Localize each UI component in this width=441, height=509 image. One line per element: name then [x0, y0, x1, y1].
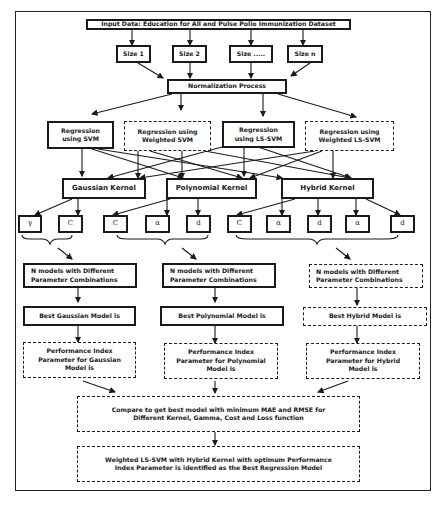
- regression-label: Regression using Weighted SVM: [138, 128, 198, 145]
- kernel-label: Polynomial Kernel: [176, 184, 248, 193]
- input-data-box: Input Data: Education for All and Pulse …: [86, 19, 351, 30]
- connector-arrows: [0, 0, 441, 509]
- performance-gaussian-box: Performance Index Parameter for Gaussian…: [23, 342, 136, 378]
- param-label: C: [237, 219, 242, 228]
- result-label: Weighted LS-SVM with Hybrid Kernel with …: [105, 456, 332, 473]
- best-polynomial-model-box: Best Polynomial Model is: [160, 306, 284, 326]
- regression-label: Regression using SVM: [61, 127, 100, 144]
- regression-label: Regression using LS-SVM: [235, 126, 283, 143]
- size-label: Size .....: [237, 50, 265, 58]
- regression-weighted-svm-box: Regression using Weighted SVM: [124, 121, 211, 151]
- param-label: α: [355, 219, 360, 228]
- performance-label: Performance Index Parameter for Polynomi…: [176, 348, 265, 373]
- param-polynomial-alpha: α: [145, 215, 170, 233]
- compare-models-box: Compare to get best model with minimum M…: [77, 396, 360, 432]
- param-label: α: [155, 219, 160, 228]
- param-label: C: [113, 219, 118, 228]
- regression-label: Regression using Weighted LS-SVM: [319, 128, 381, 145]
- size-box-n: Size n: [287, 45, 323, 63]
- best-regression-model-box: Weighted LS-SVM with Hybrid Kernel with …: [77, 446, 360, 482]
- param-label: d: [317, 219, 321, 228]
- param-polynomial-c: C: [103, 215, 128, 233]
- size-box-1: Size 1: [116, 45, 151, 63]
- size-box-2: Size 2: [172, 45, 207, 63]
- best-model-label: Best Polynomial Model is: [178, 312, 265, 320]
- best-model-label: Best Hybrid Model is: [329, 312, 401, 320]
- normalization-label: Normalization Process: [188, 82, 266, 90]
- n-models-label: N models with Different Parameter Combin…: [31, 267, 118, 284]
- size-box-etc: Size .....: [229, 45, 273, 63]
- polynomial-kernel-box: Polynomial Kernel: [166, 178, 257, 199]
- performance-label: Performance Index Parameter for Hybrid M…: [326, 348, 400, 373]
- best-gaussian-model-box: Best Gaussian Model is: [23, 306, 136, 326]
- n-models-hybrid-box: N models with Different Parameter Combin…: [309, 264, 423, 288]
- regression-weighted-ls-svm-box: Regression using Weighted LS-SVM: [305, 121, 394, 151]
- param-hybrid-c: C: [227, 215, 252, 233]
- performance-label: Performance Index Parameter for Gaussian…: [38, 347, 121, 372]
- param-label: d: [400, 219, 404, 228]
- best-model-label: Best Gaussian Model is: [39, 312, 120, 320]
- size-label: Size n: [295, 50, 316, 58]
- performance-polynomial-box: Performance Index Parameter for Polynomi…: [164, 343, 278, 379]
- param-polynomial-d: d: [186, 215, 211, 233]
- param-gaussian-gamma: γ: [18, 215, 42, 233]
- n-models-gaussian-box: N models with Different Parameter Combin…: [23, 263, 137, 288]
- param-hybrid-alpha-1: α: [266, 215, 291, 233]
- hybrid-kernel-box: Hybrid Kernel: [281, 178, 374, 199]
- compare-label: Compare to get best model with minimum M…: [112, 406, 326, 423]
- size-label: Size 2: [179, 50, 200, 58]
- gaussian-kernel-box: Gaussian Kernel: [62, 178, 146, 199]
- size-label: Size 1: [123, 50, 144, 58]
- param-label: d: [196, 219, 200, 228]
- n-models-label: N models with Different Parameter Combin…: [170, 267, 257, 284]
- normalization-box: Normalization Process: [167, 79, 287, 94]
- param-gaussian-c: C: [58, 215, 83, 233]
- param-hybrid-alpha-2: α: [345, 215, 370, 233]
- regression-svm-box: Regression using SVM: [47, 121, 114, 149]
- kernel-label: Gaussian Kernel: [72, 184, 136, 193]
- n-models-polynomial-box: N models with Different Parameter Combin…: [162, 263, 276, 288]
- param-label: C: [68, 219, 73, 228]
- grouping-braces: [22, 235, 398, 244]
- input-data-label: Input Data: Education for All and Pulse …: [101, 20, 336, 28]
- kernel-label: Hybrid Kernel: [300, 184, 354, 193]
- performance-hybrid-box: Performance Index Parameter for Hybrid M…: [306, 343, 420, 379]
- n-models-label: N models with Different Parameter Combin…: [316, 268, 403, 285]
- param-hybrid-d-1: d: [307, 215, 332, 233]
- best-hybrid-model-box: Best Hybrid Model is: [303, 307, 427, 326]
- regression-ls-svm-box: Regression using LS-SVM: [222, 121, 295, 148]
- param-label: γ: [28, 219, 32, 228]
- param-hybrid-d-2: d: [390, 215, 415, 233]
- param-label: α: [276, 219, 281, 228]
